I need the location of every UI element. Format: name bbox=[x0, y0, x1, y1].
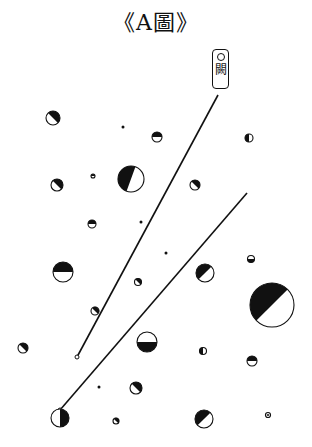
moon-phase-circle bbox=[152, 132, 162, 142]
moon-phase-circle bbox=[51, 179, 63, 191]
moon-phase-circle bbox=[248, 256, 255, 263]
moon-phase-circle bbox=[113, 418, 119, 424]
label-tag: 闕 bbox=[212, 49, 229, 89]
moon-phase-circle bbox=[18, 343, 28, 353]
moon-phase-circle bbox=[91, 307, 99, 315]
moon-phase-circle bbox=[190, 180, 200, 190]
moon-phase-circle bbox=[98, 386, 101, 389]
moon-phase-circle bbox=[88, 220, 96, 228]
label-char: 闕 bbox=[215, 63, 227, 77]
moon-phase-circle bbox=[46, 111, 60, 125]
moon-phase-circle bbox=[195, 410, 213, 428]
moon-phase-circle bbox=[140, 221, 143, 224]
moon-phase-circle bbox=[247, 356, 257, 366]
moon-phase-circle bbox=[122, 126, 125, 129]
moon-phase-circle bbox=[118, 166, 144, 192]
moon-phase-circle bbox=[196, 264, 214, 282]
line-1 bbox=[77, 95, 218, 357]
moon-phase-circle bbox=[53, 262, 73, 282]
moon-phase-circle bbox=[137, 332, 157, 352]
diagram-canvas bbox=[0, 0, 312, 447]
line-end-marker bbox=[75, 355, 79, 359]
moon-phase-circle bbox=[266, 413, 271, 418]
moon-phase-circle bbox=[250, 283, 294, 327]
moon-phase-circle bbox=[130, 382, 142, 394]
moon-phase-circle bbox=[135, 278, 142, 285]
moon-phase-circle bbox=[200, 348, 207, 355]
moon-phase-circle bbox=[165, 252, 168, 255]
moon-phase-circle bbox=[51, 409, 69, 427]
ring-icon bbox=[217, 53, 225, 61]
moon-phase-circle bbox=[91, 174, 95, 178]
moon-phase-circle bbox=[245, 134, 253, 142]
